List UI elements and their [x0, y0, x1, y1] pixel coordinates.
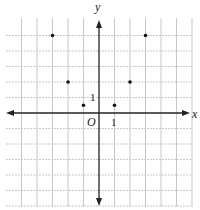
y-axis-down-arrow-icon — [96, 198, 102, 206]
data-point — [144, 34, 148, 38]
data-point — [51, 34, 55, 38]
data-point — [82, 103, 86, 107]
x-axis-label: x — [192, 108, 197, 120]
x-axis-right-arrow-icon — [182, 110, 190, 116]
x-axis-left-arrow-icon — [6, 110, 14, 116]
data-point — [128, 80, 132, 84]
y-axis-label: y — [95, 1, 100, 13]
x-unit-tick-label: 1 — [111, 117, 117, 128]
y-axis-up-arrow-icon — [96, 20, 102, 28]
origin-label: O — [87, 116, 96, 128]
axes — [6, 20, 190, 206]
data-point — [66, 80, 70, 84]
coordinate-plane — [0, 0, 200, 210]
data-point — [113, 103, 117, 107]
y-unit-tick-label: 1 — [90, 92, 96, 103]
